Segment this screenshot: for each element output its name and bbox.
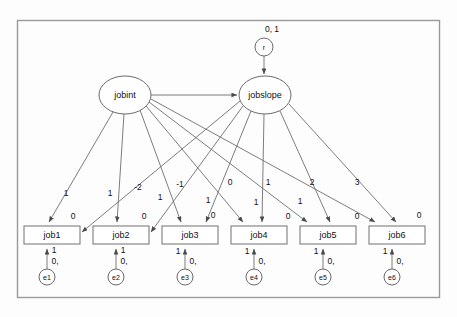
loading-label-jobslope-job6: 3: [355, 177, 360, 187]
edge-jobint-to-job3: [140, 110, 181, 222]
intercept-label-job4: 0: [286, 211, 291, 221]
loading-label-jobslope-job3: 0: [228, 177, 233, 187]
loading-label-jobint-job3: 1: [158, 192, 163, 202]
error-loading-e1: 1: [52, 245, 57, 255]
edge-jobslope-to-job2: [151, 106, 243, 232]
loading-label-jobint-job4: 1: [206, 195, 211, 205]
edge-jobslope-to-job1: [82, 101, 240, 232]
error-params-e5: 0,: [327, 256, 334, 266]
loading-label-jobslope-job5: 2: [310, 177, 315, 187]
error-label-e3: e3: [181, 274, 189, 281]
loading-label-jobslope-job2: -1: [176, 179, 184, 189]
intercept-label-job2: 0: [142, 211, 147, 221]
observed-label-job6: job6: [387, 230, 405, 240]
intercept-label-job3: 0: [211, 210, 216, 220]
latent-label-jobslope: jobslope: [247, 90, 282, 100]
loading-label-jobint-job6: 1: [298, 196, 303, 206]
observed-label-job3: job3: [180, 230, 198, 240]
error-loading-e6: 1: [383, 246, 388, 256]
edge-jobslope-to-job5: [280, 111, 330, 222]
error-loading-e4: 1: [245, 246, 250, 256]
error-params-e2: 0,: [120, 256, 127, 266]
edge-jobint-to-job1: [49, 112, 113, 222]
loading-label-jobslope-job4: 1: [266, 177, 271, 187]
disturbance-params-r: 0, 1: [265, 24, 279, 34]
sem-path-diagram: jobint jobslope r 0, 1 job1 0 job2 0 job…: [0, 0, 457, 317]
loading-label-jobint-job1: 1: [64, 188, 69, 198]
observed-label-job5: job5: [318, 230, 336, 240]
error-params-e4: 0,: [258, 256, 265, 266]
intercept-label-job5: 0: [355, 211, 360, 221]
edge-jobint-to-job2: [117, 114, 124, 222]
diagram-canvas: jobint jobslope r 0, 1 job1 0 job2 0 job…: [0, 0, 457, 317]
error-params-e1: 0,: [51, 256, 58, 266]
edge-jobint-to-job4: [146, 106, 243, 222]
error-loading-e5: 1: [314, 246, 319, 256]
error-label-e1: e1: [43, 274, 51, 281]
error-label-e2: e2: [112, 274, 120, 281]
diagram-border: [18, 21, 440, 298]
edge-jobslope-to-job4: [262, 114, 264, 222]
latent-label-jobint: jobint: [113, 90, 136, 100]
error-label-e5: e5: [319, 274, 327, 281]
observed-label-job1: job1: [42, 230, 60, 240]
observed-label-job4: job4: [249, 230, 267, 240]
loading-label-jobslope-job1: -2: [134, 182, 142, 192]
error-label-e6: e6: [388, 274, 396, 281]
error-loading-e3: 1: [176, 246, 181, 256]
error-label-e4: e4: [250, 274, 258, 281]
error-params-e3: 0,: [189, 256, 196, 266]
observed-label-job2: job2: [111, 230, 129, 240]
intercept-label-job6: 0: [417, 210, 422, 220]
error-params-e6: 0,: [396, 256, 403, 266]
intercept-label-job1: 0: [71, 211, 76, 221]
loading-label-jobint-job5: 1: [254, 197, 259, 207]
loading-label-jobint-job2: 1: [108, 188, 113, 198]
error-loading-e2: 1: [121, 245, 126, 255]
